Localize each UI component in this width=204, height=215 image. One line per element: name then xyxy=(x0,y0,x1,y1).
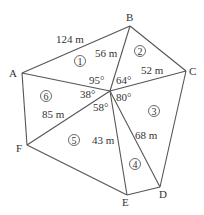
distance-label: 68 m xyxy=(135,129,158,141)
region-number: 1 xyxy=(78,56,83,67)
region-badge-1: 1 xyxy=(75,56,86,67)
distance-label: 56 m xyxy=(95,47,118,59)
region-number: 4 xyxy=(133,159,138,170)
distance-label: 43 m xyxy=(92,134,115,146)
region-number: 6 xyxy=(44,91,49,102)
region-number: 2 xyxy=(138,46,143,57)
region-number: 3 xyxy=(152,106,157,117)
angle-label: 58° xyxy=(93,101,108,113)
triangulated-polygon-diagram: ABCDEF 124 m56 m52 m85 m43 m68 m 95°64°3… xyxy=(0,0,204,215)
region-badge-5: 5 xyxy=(69,135,80,146)
angle-label: 38° xyxy=(80,88,95,100)
distance-label: 124 m xyxy=(56,33,84,45)
vertex-label-C: C xyxy=(189,65,196,77)
region-number: 5 xyxy=(72,135,77,146)
vertex-label-F: F xyxy=(16,142,22,154)
region-badge-4: 4 xyxy=(130,159,141,170)
angle-label: 80° xyxy=(116,91,131,103)
vertex-label-D: D xyxy=(159,188,167,200)
region-badge-3: 3 xyxy=(149,106,160,117)
region-badge-2: 2 xyxy=(135,46,146,57)
edge-EF xyxy=(27,145,127,195)
distance-label: 52 m xyxy=(141,64,164,76)
angle-label: 95° xyxy=(89,74,104,86)
edge-FA xyxy=(22,73,27,145)
vertex-label-B: B xyxy=(126,11,133,23)
edge-CD xyxy=(160,71,186,187)
vertex-label-A: A xyxy=(9,67,17,79)
distance-label: 85 m xyxy=(42,108,65,120)
region-badge-6: 6 xyxy=(41,91,52,102)
vertex-label-E: E xyxy=(122,196,129,208)
angle-label: 64° xyxy=(116,74,131,86)
edge-DE xyxy=(127,187,160,195)
